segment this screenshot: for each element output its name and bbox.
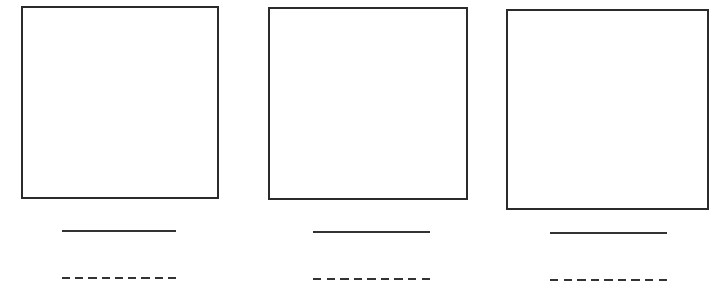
panel-3	[0, 0, 717, 288]
writing-line-dashed-3	[550, 279, 667, 281]
drawing-box-3	[506, 9, 709, 210]
writing-line-solid-3	[550, 232, 667, 234]
